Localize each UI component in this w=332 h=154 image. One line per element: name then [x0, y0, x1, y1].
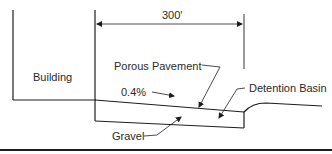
slope-arrow	[152, 92, 174, 96]
dimension-label: 300'	[162, 10, 182, 21]
building-outline	[13, 10, 96, 100]
detention-basin-label: Detention Basin	[249, 83, 327, 94]
gravel-label: Gravel	[112, 131, 144, 142]
building-label: Building	[33, 72, 72, 83]
slope-label: 0.4%	[121, 87, 146, 98]
porous-pavement-label: Porous Pavement	[114, 61, 201, 72]
detention-basin-leader	[219, 88, 245, 118]
detention-basin-profile	[244, 103, 322, 112]
porous-pavement-leader	[199, 65, 220, 107]
gravel-leader	[144, 117, 181, 136]
